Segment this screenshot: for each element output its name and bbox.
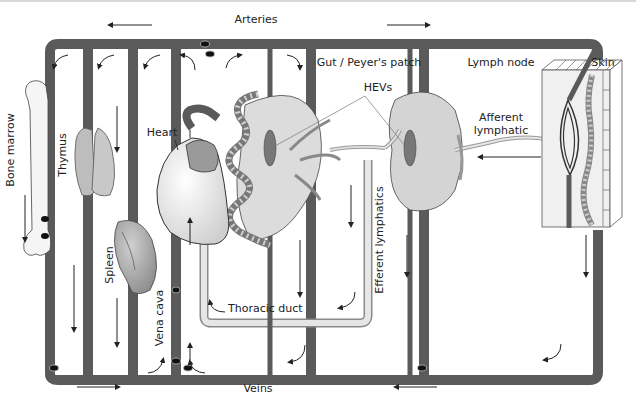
label-veins: Veins [243,382,272,395]
bone-femur [24,81,51,256]
label-afferent: Afferent [479,111,524,124]
label-bone-marrow: Bone marrow [4,113,17,186]
label-heart: Heart [147,126,178,139]
label-thoracic-duct: Thoracic duct [227,302,303,315]
label-spleen: Spleen [103,246,116,284]
label-arteries: Arteries [234,13,277,26]
lymphocyte-cell [41,216,49,222]
skin-tissue [542,60,622,228]
lymphocyte-recirculation-diagram: Arteries Veins Bone marrow Thymus Spleen… [0,0,636,401]
label-hevs: HEVs [364,81,393,94]
label-efferent-lymphatics: Efferent lymphatics [373,186,386,294]
label-skin: Skin [591,56,614,69]
label-vena-cava: Vena cava [153,290,166,347]
label-thymus: Thymus [56,133,69,178]
lymphocyte-cell [41,233,49,239]
label-lymphatic: lymphatic [474,124,528,137]
label-lymph-node: Lymph node [467,56,534,69]
label-gut-peyers-patch: Gut / Peyer's patch [317,56,422,69]
